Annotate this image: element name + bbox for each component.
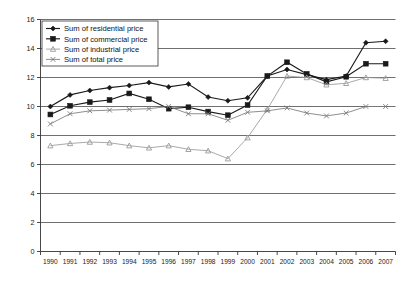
data-point-marker: [68, 92, 73, 97]
x-tick-label: 1991: [63, 258, 78, 265]
x-tick-label: 1992: [82, 258, 97, 265]
x-tick-label: 2003: [299, 258, 314, 265]
x-tick-label: 2005: [339, 258, 354, 265]
data-point-marker: [225, 118, 230, 123]
legend-label: Sum of residential price: [64, 24, 143, 33]
data-point-marker: [383, 61, 388, 66]
chart-container: 0246810121416 19901991199219931994199519…: [0, 0, 412, 282]
y-tick-label: 12: [27, 73, 35, 82]
series-4: [48, 104, 388, 126]
data-point-marker: [146, 80, 151, 85]
data-point-marker: [166, 84, 171, 89]
x-tick-label: 1990: [43, 258, 58, 265]
x-tick-label: 2001: [260, 258, 275, 265]
y-tick-label: 2: [31, 218, 35, 227]
x-tick-label: 2004: [319, 258, 334, 265]
data-point-marker: [48, 122, 53, 127]
data-point-marker: [364, 61, 369, 66]
y-tick-label: 0: [31, 247, 35, 256]
x-tick-label: 1994: [122, 258, 137, 265]
x-tick-label: 2007: [378, 258, 393, 265]
chart-legend: Sum of residential priceSum of commercia…: [42, 21, 158, 66]
data-point-marker: [186, 105, 191, 110]
legend-label: Sum of commercial price: [64, 35, 148, 44]
x-tick-label: 2000: [240, 258, 255, 265]
data-point-marker: [48, 104, 53, 109]
data-point-marker: [51, 36, 56, 41]
data-point-marker: [68, 103, 73, 108]
x-tick-label: 1995: [142, 258, 157, 265]
data-point-marker: [383, 39, 388, 44]
x-tick-label: 1998: [201, 258, 216, 265]
series-line: [50, 107, 385, 124]
x-tick-label: 1996: [161, 258, 176, 265]
data-point-marker: [107, 98, 112, 103]
data-point-marker: [225, 98, 230, 103]
data-point-marker: [127, 83, 132, 88]
data-point-marker: [48, 112, 53, 117]
y-tick-label: 4: [31, 189, 35, 198]
y-tick-label: 14: [27, 44, 35, 53]
data-point-marker: [285, 60, 290, 65]
line-chart: 0246810121416 19901991199219931994199519…: [0, 0, 412, 282]
y-tick-label: 16: [27, 15, 35, 24]
legend-label: Sum of industrial price: [64, 45, 139, 54]
x-tick-label: 1997: [181, 258, 196, 265]
y-tick-label: 10: [27, 102, 35, 111]
data-point-marker: [285, 67, 290, 72]
legend-label: Sum of total price: [64, 55, 123, 64]
x-tick-label: 2006: [359, 258, 374, 265]
x-tick-label: 1993: [102, 258, 117, 265]
y-tick-label: 6: [31, 160, 35, 169]
data-point-marker: [107, 85, 112, 90]
data-point-marker: [225, 113, 230, 118]
data-point-marker: [265, 74, 270, 79]
x-tick-label: 2002: [280, 258, 295, 265]
data-point-marker: [344, 74, 349, 79]
y-tick-label: 8: [31, 131, 35, 140]
data-point-marker: [245, 103, 250, 108]
data-point-marker: [127, 91, 132, 96]
y-axis: 0246810121416: [27, 15, 41, 256]
data-point-marker: [87, 100, 92, 105]
data-point-marker: [147, 97, 152, 102]
data-point-marker: [363, 40, 368, 45]
data-point-marker: [87, 88, 92, 93]
x-axis: 1990199119921993199419951996199719981999…: [41, 252, 396, 266]
x-tick-label: 1999: [221, 258, 236, 265]
